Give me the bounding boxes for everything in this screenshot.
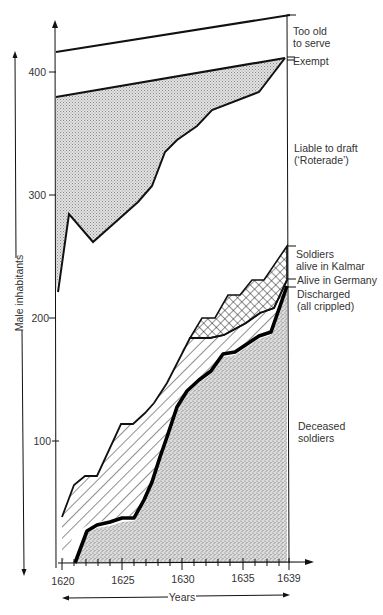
y-tick-100: 100 (33, 435, 51, 447)
label-too-old-line2: to serve (293, 37, 331, 49)
x-tick-1639: 1639 (277, 572, 301, 584)
label-discharged-line2: (all crippled) (297, 300, 354, 312)
x-tick-1625: 1625 (111, 574, 135, 586)
x-axis-label: Years (169, 591, 195, 603)
y-axis (55, 26, 56, 568)
stacked-area-chart: 400 300 200 100 1620 1625 1630 1635 1639… (0, 0, 383, 615)
label-kalmar-line2: alive in Kalmar (296, 260, 365, 272)
x-tick-1635: 1635 (231, 572, 255, 584)
y-tick-200: 200 (31, 312, 49, 324)
y-tick-300: 300 (28, 189, 46, 201)
y-axis-label: Male inhabitants (13, 255, 25, 331)
label-liable-line2: (‘Roterade’) (294, 154, 349, 166)
label-alive-in-germany: Alive in Germany (297, 274, 378, 286)
label-deceased-line2: soldiers (298, 432, 334, 444)
label-exempt: Exempt (293, 55, 329, 67)
y-tick-400: 400 (28, 66, 46, 78)
y-label-arrowhead-bottom (22, 569, 27, 576)
y-label-arrow-bottom (22, 330, 24, 570)
y-label-arrow-top (15, 56, 16, 258)
x-label-arrow-left (66, 597, 168, 598)
y-label-arrowhead-top (13, 51, 18, 58)
x-label-arrow-right (196, 595, 286, 596)
x-axis-arrowhead (305, 559, 314, 565)
x-tick-1630: 1630 (171, 573, 195, 585)
x-label-arrowhead-left (62, 596, 69, 601)
y-axis-arrowhead (52, 20, 58, 28)
area-liable-to-draft (56, 58, 285, 292)
label-too-old-line1: Too old (293, 25, 327, 37)
label-liable-line1: Liable to draft (294, 142, 358, 154)
too-old-top-line (56, 15, 290, 52)
x-label-arrowhead-right (283, 593, 290, 598)
label-discharged-line1: Discharged (297, 288, 350, 300)
label-deceased-line1: Deceased (298, 420, 345, 432)
label-kalmar-line1: Soldiers (296, 248, 334, 260)
x-tick-1620: 1620 (51, 575, 75, 587)
